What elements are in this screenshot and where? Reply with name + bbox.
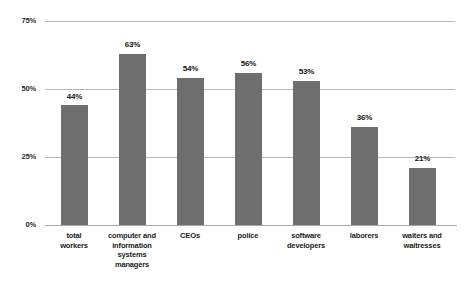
y-tick-label-25: 25% <box>0 153 36 161</box>
bar-slot-software-developers: 53% <box>279 81 334 225</box>
bar-laborers[interactable] <box>351 127 378 225</box>
x-label-line: laborers <box>333 231 395 241</box>
x-label-line: waiters and <box>391 231 453 241</box>
x-axis-labels: total workers computer and information s… <box>45 231 457 289</box>
bar-waiters-and-waitresses[interactable] <box>409 168 436 225</box>
bar-value-label: 36% <box>337 114 392 122</box>
x-label-ceos: CEOs <box>159 231 221 241</box>
x-label-line: systems <box>101 250 163 260</box>
bar-value-label: 21% <box>395 155 450 163</box>
x-label-line: waitresses <box>391 241 453 251</box>
bar-slot-ceos: 54% <box>163 78 218 225</box>
bar-value-label: 56% <box>221 60 276 68</box>
bar-total-workers[interactable] <box>61 105 88 225</box>
bar-software-developers[interactable] <box>293 81 320 225</box>
bar-slot-police: 56% <box>221 73 276 225</box>
x-label-line: information <box>101 241 163 251</box>
bar-value-label: 54% <box>163 65 218 73</box>
bar-ceos[interactable] <box>177 78 204 225</box>
bar-slot-total-workers: 44% <box>47 105 102 225</box>
x-label-line: managers <box>101 260 163 270</box>
bar-slot-waiters-and-waitresses: 21% <box>395 168 450 225</box>
x-label-waiters-and-waitresses: waiters and waitresses <box>391 231 453 250</box>
bar-value-label: 44% <box>47 93 102 101</box>
bar-value-label: 63% <box>105 41 160 49</box>
x-label-line: workers <box>43 241 105 251</box>
bar-chart: 75% 50% 25% 0% 44% 63% 54% 56% 53% 36% <box>0 0 473 290</box>
x-label-line: software <box>275 231 337 241</box>
x-label-line: computer and <box>101 231 163 241</box>
bar-slot-laborers: 36% <box>337 127 392 225</box>
bar-slot-computer-and-information-systems-managers: 63% <box>105 54 160 225</box>
bar-police[interactable] <box>235 73 262 225</box>
y-tick-label-75: 75% <box>0 17 36 25</box>
x-label-laborers: laborers <box>333 231 395 241</box>
y-tick-label-0: 0% <box>0 221 36 229</box>
x-label-total-workers: total workers <box>43 231 105 250</box>
x-label-line: CEOs <box>159 231 221 241</box>
x-label-line: developers <box>275 241 337 251</box>
x-label-police: police <box>217 231 279 241</box>
bar-value-label: 53% <box>279 68 334 76</box>
x-label-line: police <box>217 231 279 241</box>
x-label-line: total <box>43 231 105 241</box>
x-label-software-developers: software developers <box>275 231 337 250</box>
bar-computer-and-information-systems-managers[interactable] <box>119 54 146 225</box>
x-label-computer-and-information-systems-managers: computer and information systems manager… <box>101 231 163 269</box>
y-tick-label-50: 50% <box>0 85 36 93</box>
